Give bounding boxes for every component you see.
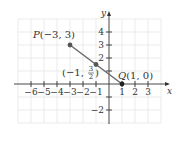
- point-p-coords: (−3, 3): [40, 29, 75, 40]
- x-tick-label: −5: [37, 87, 51, 97]
- coordinate-plane-diagram: y x −6 −5 −4 −3 −2 −1 1 2 3 4 3 2 −2 P(−…: [0, 0, 179, 143]
- point-q: [120, 82, 125, 87]
- y-tick-label: 2: [98, 53, 104, 63]
- point-q-label: Q(1, 0): [118, 70, 153, 81]
- point-q-name: Q: [118, 70, 126, 81]
- x-tick-label: 2: [132, 87, 138, 97]
- y-tick-label: −2: [91, 105, 104, 115]
- y-axis-label: y: [100, 8, 107, 18]
- point-p: [68, 43, 73, 48]
- y-tick-label: 3: [98, 40, 104, 50]
- x-tick-label: −6: [24, 87, 38, 97]
- x-tick-labels: −6 −5 −4 −3 −2 −1 1 2 3: [24, 87, 151, 97]
- x-tick-label: 1: [119, 87, 125, 97]
- y-axis: [106, 11, 112, 124]
- x-tick-label: −3: [63, 87, 77, 97]
- midpoint-frac-num: 3: [89, 65, 93, 73]
- point-p-label: P(−3, 3): [32, 29, 75, 40]
- midpoint-frac-den: 2: [89, 73, 93, 81]
- y-tick-label: 4: [98, 27, 104, 37]
- point-q-coords: (1, 0): [126, 70, 153, 81]
- x-tick-label: −4: [50, 87, 64, 97]
- x-tick-label: −1: [89, 87, 102, 97]
- x-axis-label: x: [167, 86, 172, 96]
- x-tick-label: −2: [76, 87, 89, 97]
- midpoint-label: (−1, 3 2 ): [62, 65, 99, 81]
- midpoint-label-close: ): [95, 67, 99, 78]
- midpoint-label-open: (−1,: [62, 67, 84, 78]
- x-tick-label: 3: [145, 87, 151, 97]
